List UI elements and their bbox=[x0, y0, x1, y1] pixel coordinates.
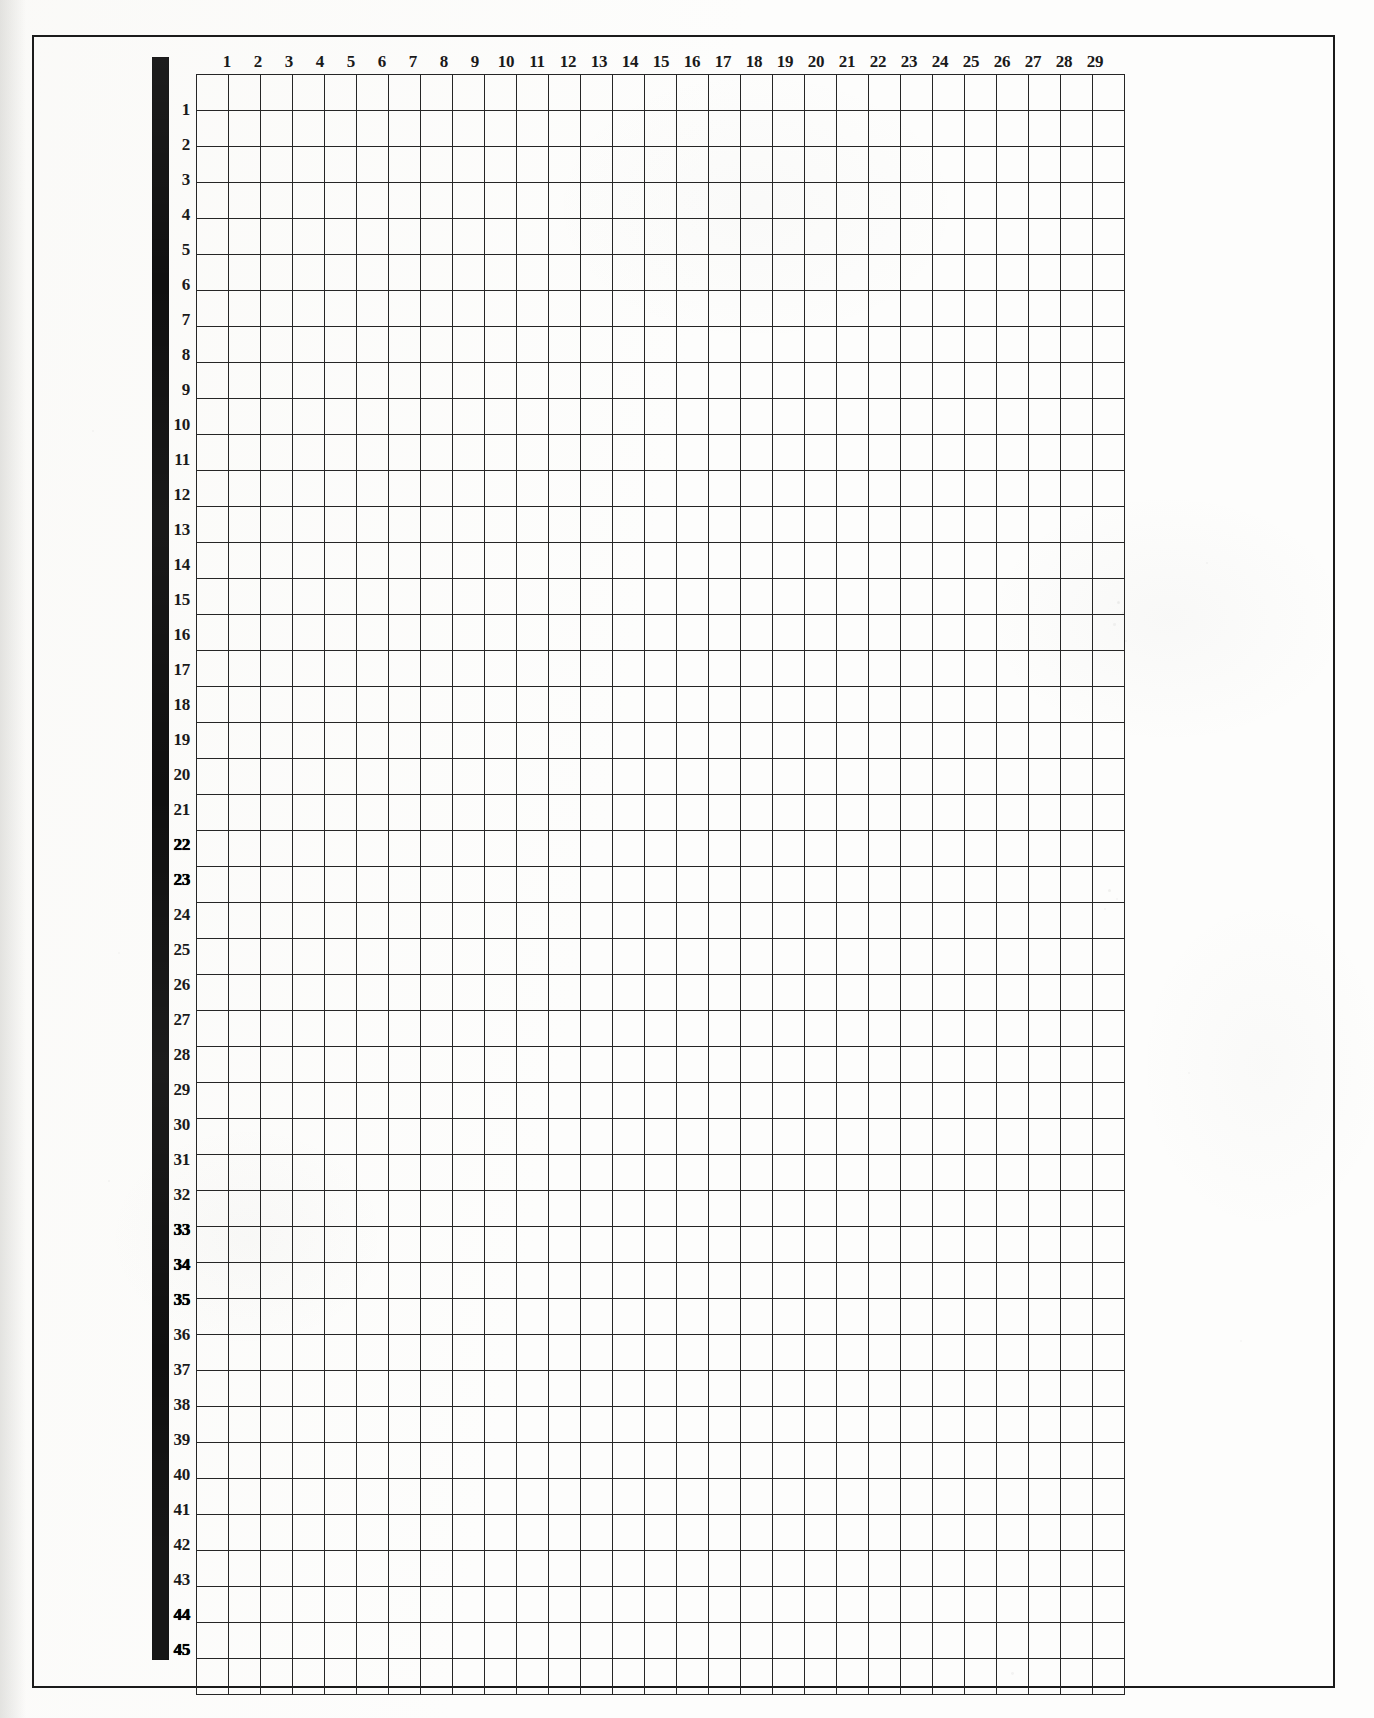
grid-cell[interactable] bbox=[709, 1623, 741, 1659]
grid-cell[interactable] bbox=[293, 759, 325, 795]
grid-cell[interactable] bbox=[709, 1587, 741, 1623]
grid-cell[interactable] bbox=[709, 255, 741, 291]
grid-cell[interactable] bbox=[485, 723, 517, 759]
grid-cell[interactable] bbox=[549, 399, 581, 435]
grid-cell[interactable] bbox=[261, 867, 293, 903]
grid-cell[interactable] bbox=[1093, 759, 1125, 795]
grid-cell[interactable] bbox=[325, 327, 357, 363]
grid-cell[interactable] bbox=[389, 1407, 421, 1443]
grid-cell[interactable] bbox=[389, 687, 421, 723]
grid-cell[interactable] bbox=[549, 183, 581, 219]
grid-cell[interactable] bbox=[261, 615, 293, 651]
grid-cell[interactable] bbox=[1029, 867, 1061, 903]
grid-cell[interactable] bbox=[549, 1443, 581, 1479]
grid-cell[interactable] bbox=[965, 1551, 997, 1587]
grid-cell[interactable] bbox=[517, 1623, 549, 1659]
grid-cell[interactable] bbox=[517, 1083, 549, 1119]
grid-cell[interactable] bbox=[773, 1407, 805, 1443]
grid-cell[interactable] bbox=[1029, 471, 1061, 507]
grid-cell[interactable] bbox=[997, 1659, 1029, 1695]
grid-cell[interactable] bbox=[741, 1263, 773, 1299]
grid-cell[interactable] bbox=[357, 183, 389, 219]
grid-cell[interactable] bbox=[773, 651, 805, 687]
grid-cell[interactable] bbox=[997, 759, 1029, 795]
grid-cell[interactable] bbox=[325, 1335, 357, 1371]
grid-cell[interactable] bbox=[517, 1587, 549, 1623]
grid-cell[interactable] bbox=[1029, 651, 1061, 687]
grid-cell[interactable] bbox=[1093, 435, 1125, 471]
grid-cell[interactable] bbox=[613, 831, 645, 867]
grid-cell[interactable] bbox=[453, 975, 485, 1011]
grid-cell[interactable] bbox=[581, 1119, 613, 1155]
grid-cell[interactable] bbox=[869, 1479, 901, 1515]
grid-cell[interactable] bbox=[1093, 579, 1125, 615]
grid-cell[interactable] bbox=[805, 1371, 837, 1407]
grid-cell[interactable] bbox=[325, 687, 357, 723]
grid-cell[interactable] bbox=[197, 651, 229, 687]
grid-cell[interactable] bbox=[741, 687, 773, 723]
grid-cell[interactable] bbox=[293, 1047, 325, 1083]
grid-cell[interactable] bbox=[1093, 1407, 1125, 1443]
grid-cell[interactable] bbox=[581, 75, 613, 111]
grid-cell[interactable] bbox=[293, 1659, 325, 1695]
grid-cell[interactable] bbox=[933, 327, 965, 363]
grid-cell[interactable] bbox=[389, 1479, 421, 1515]
grid-cell[interactable] bbox=[901, 1011, 933, 1047]
grid-cell[interactable] bbox=[229, 1371, 261, 1407]
grid-cell[interactable] bbox=[485, 1335, 517, 1371]
grid-cell[interactable] bbox=[965, 867, 997, 903]
grid-cell[interactable] bbox=[613, 1443, 645, 1479]
grid-cell[interactable] bbox=[197, 1047, 229, 1083]
grid-cell[interactable] bbox=[357, 1227, 389, 1263]
grid-cell[interactable] bbox=[485, 1047, 517, 1083]
grid-cell[interactable] bbox=[709, 1659, 741, 1695]
grid-cell[interactable] bbox=[613, 507, 645, 543]
grid-cell[interactable] bbox=[869, 1299, 901, 1335]
grid-cell[interactable] bbox=[357, 579, 389, 615]
grid-cell[interactable] bbox=[837, 1551, 869, 1587]
grid-cell[interactable] bbox=[709, 687, 741, 723]
grid-cell[interactable] bbox=[485, 1659, 517, 1695]
grid-cell[interactable] bbox=[1061, 1119, 1093, 1155]
grid-cell[interactable] bbox=[1061, 1083, 1093, 1119]
grid-cell[interactable] bbox=[197, 1407, 229, 1443]
grid-cell[interactable] bbox=[325, 1443, 357, 1479]
grid-cell[interactable] bbox=[965, 507, 997, 543]
grid-cell[interactable] bbox=[549, 939, 581, 975]
grid-cell[interactable] bbox=[677, 1155, 709, 1191]
grid-cell[interactable] bbox=[1093, 111, 1125, 147]
grid-cell[interactable] bbox=[549, 327, 581, 363]
grid-cell[interactable] bbox=[1093, 183, 1125, 219]
grid-cell[interactable] bbox=[389, 147, 421, 183]
grid-cell[interactable] bbox=[293, 1191, 325, 1227]
grid-cell[interactable] bbox=[357, 615, 389, 651]
grid-cell[interactable] bbox=[453, 183, 485, 219]
grid-cell[interactable] bbox=[645, 579, 677, 615]
grid-cell[interactable] bbox=[1093, 1623, 1125, 1659]
grid-cell[interactable] bbox=[325, 183, 357, 219]
grid-cell[interactable] bbox=[1061, 1191, 1093, 1227]
grid-cell[interactable] bbox=[837, 903, 869, 939]
grid-cell[interactable] bbox=[773, 939, 805, 975]
grid-cell[interactable] bbox=[869, 1443, 901, 1479]
grid-cell[interactable] bbox=[357, 651, 389, 687]
grid-cell[interactable] bbox=[1029, 1155, 1061, 1191]
grid-cell[interactable] bbox=[1061, 1443, 1093, 1479]
grid-cell[interactable] bbox=[901, 75, 933, 111]
grid-cell[interactable] bbox=[453, 1335, 485, 1371]
grid-cell[interactable] bbox=[1029, 1659, 1061, 1695]
grid-cell[interactable] bbox=[869, 1551, 901, 1587]
grid-cell[interactable] bbox=[709, 327, 741, 363]
grid-cell[interactable] bbox=[293, 867, 325, 903]
grid-cell[interactable] bbox=[773, 183, 805, 219]
grid-cell[interactable] bbox=[741, 75, 773, 111]
grid-cell[interactable] bbox=[645, 1227, 677, 1263]
grid-cell[interactable] bbox=[805, 939, 837, 975]
grid-cell[interactable] bbox=[1061, 1299, 1093, 1335]
grid-cell[interactable] bbox=[389, 1191, 421, 1227]
grid-cell[interactable] bbox=[1029, 1083, 1061, 1119]
grid-cell[interactable] bbox=[261, 1191, 293, 1227]
grid-cell[interactable] bbox=[1029, 1119, 1061, 1155]
grid-cell[interactable] bbox=[197, 1371, 229, 1407]
grid-cell[interactable] bbox=[965, 1227, 997, 1263]
